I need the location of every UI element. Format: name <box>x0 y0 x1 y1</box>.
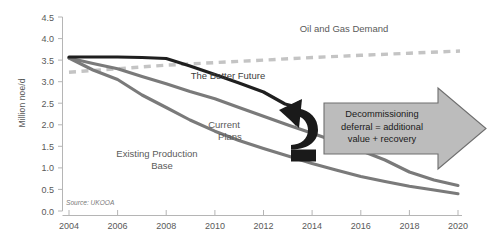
chart-figure: Million noe/d <box>0 0 502 247</box>
x-axis <box>63 210 463 216</box>
callout-line-1: Decommissioning <box>345 109 418 119</box>
annotation-current-plans-line1: Current <box>208 119 240 130</box>
callout-text: Decommissioning deferral = additional va… <box>341 109 423 144</box>
y-tick-label: 1.0 <box>41 163 54 173</box>
y-tick-label: 0.0 <box>41 207 54 217</box>
y-tick-label: 3.0 <box>41 77 54 87</box>
annotation-existing-production-base-line1: Existing Production <box>116 148 197 159</box>
chart-canvas: 4.5 4.0 3.5 3.0 2.5 2.0 1.5 1.0 0.5 0.0 … <box>0 0 502 247</box>
annotation-current-plans-line2: Plans <box>218 131 242 142</box>
x-tick-label: 2006 <box>108 221 128 231</box>
x-tick-label: 2008 <box>156 221 176 231</box>
annotation-oil-and-gas-demand: Oil and Gas Demand <box>300 23 389 34</box>
y-tick-labels: 4.5 4.0 3.5 3.0 2.5 2.0 1.5 1.0 0.5 0.0 <box>41 13 54 217</box>
x-tick-label: 2014 <box>302 221 322 231</box>
y-tick-label: 4.5 <box>41 13 54 23</box>
x-tick-label: 2018 <box>399 221 419 231</box>
callout-line-2: deferral = additional <box>341 122 423 132</box>
y-tick-label: 3.5 <box>41 56 54 66</box>
x-tick-label: 2012 <box>253 221 273 231</box>
source-note: Source: UKOOA <box>66 199 115 206</box>
x-tick-label: 2016 <box>351 221 371 231</box>
y-tick-label: 2.0 <box>41 120 54 130</box>
annotation-existing-production-base-line2: Base <box>151 160 173 171</box>
annotation-the-better-future: The Better Future <box>191 70 265 81</box>
x-tick-labels: 2004 2006 2008 2010 2012 2014 2016 2018 … <box>59 221 468 231</box>
y-axis <box>58 17 63 211</box>
y-tick-label: 0.5 <box>41 185 54 195</box>
x-tick-label: 2010 <box>205 221 225 231</box>
y-tick-label: 2.5 <box>41 99 54 109</box>
y-tick-label: 1.5 <box>41 142 54 152</box>
x-tick-label: 2020 <box>448 221 468 231</box>
callout-line-3: value + recovery <box>348 134 417 144</box>
x-tick-label: 2004 <box>59 221 79 231</box>
y-tick-label: 4.0 <box>41 34 54 44</box>
